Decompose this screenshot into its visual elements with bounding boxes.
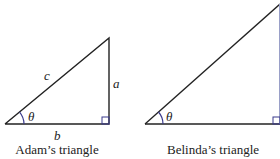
- adam-angle-label: θ: [28, 109, 35, 124]
- adam-angle-arc-icon: [20, 112, 24, 124]
- belinda-triangle: θ Belinda’s triangle: [145, 4, 280, 157]
- belinda-angle-arc-icon: [159, 112, 164, 124]
- adam-caption: Adam’s triangle: [15, 142, 99, 157]
- belinda-angle-label: θ: [166, 109, 173, 124]
- adam-adjacent-label: b: [54, 128, 61, 143]
- adam-triangle: θ c a b Adam’s triangle: [5, 38, 120, 157]
- adam-triangle-outline: [5, 38, 109, 124]
- adam-opposite-label: a: [113, 76, 120, 91]
- triangles-diagram: θ c a b Adam’s triangle θ Belinda’s tria…: [0, 0, 280, 159]
- belinda-hypotenuse-line: [145, 4, 280, 124]
- adam-hypotenuse-label: c: [44, 68, 50, 83]
- adam-right-angle-icon: [102, 117, 109, 124]
- belinda-caption: Belinda’s triangle: [167, 142, 259, 157]
- belinda-right-angle-icon: [273, 117, 280, 124]
